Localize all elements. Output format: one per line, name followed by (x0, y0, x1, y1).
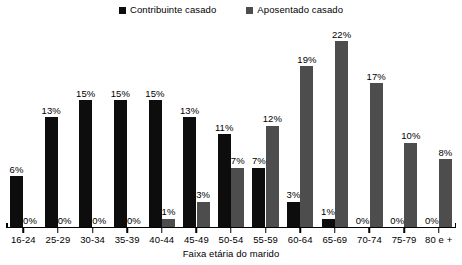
bar (197, 202, 210, 227)
bar (231, 168, 244, 227)
x-axis-tick (438, 228, 440, 233)
x-axis-tick (403, 228, 405, 233)
bar (10, 176, 23, 227)
x-axis-tick-label: 65-69 (322, 234, 347, 246)
x-axis-tick-label: 50-54 (219, 234, 244, 246)
x-axis-tick (230, 228, 232, 233)
bar-value-label: 0% (92, 216, 106, 226)
x-axis-tick-label: 75-79 (392, 234, 417, 246)
bar-group: 0%10% (387, 22, 422, 228)
x-axis-tick-label: 30-34 (80, 234, 105, 246)
bar (183, 117, 196, 227)
legend-entry-contribuinte-casado: Contribuinte casado (119, 5, 216, 15)
square-marker-icon (119, 7, 126, 14)
bar-value-label: 1% (321, 207, 335, 217)
bar-group: 3%19% (283, 22, 318, 228)
bar (287, 202, 300, 227)
x-axis-title: Faixa etária do marido (0, 248, 462, 260)
bar (45, 117, 58, 227)
bar-value-label: 3% (196, 190, 210, 200)
bar-value-label: 7% (231, 156, 245, 166)
bar (79, 100, 92, 227)
bar-value-label: 0% (356, 216, 370, 226)
bar (149, 100, 162, 227)
bar-group: 0%8% (421, 22, 456, 228)
bar-group: 15%0% (110, 22, 145, 228)
bar-value-label: 17% (367, 72, 386, 82)
x-axis-tick (92, 228, 94, 233)
bar-value-label: 6% (10, 165, 24, 175)
x-axis-tick (369, 228, 371, 233)
x-axis-tick (196, 228, 198, 233)
bar-value-label: 3% (287, 190, 301, 200)
bar-group: 15%1% (144, 22, 179, 228)
x-axis-tick-label: 70-74 (357, 234, 382, 246)
bar-value-label: 10% (401, 131, 420, 141)
bar-group: 7%12% (248, 22, 283, 228)
bar-group: 13%3% (179, 22, 214, 228)
bar-chart: Contribuinte casado Aposentado casado 6%… (0, 0, 462, 265)
x-axis-tick-label: 35-39 (115, 234, 140, 246)
x-axis-tick (126, 228, 128, 233)
x-axis-tick (334, 228, 336, 233)
x-axis-tick (57, 228, 59, 233)
bar (114, 100, 127, 227)
legend-entry-aposentado-casado: Aposentado casado (246, 5, 343, 15)
bar-value-label: 22% (332, 30, 351, 40)
bar (335, 41, 348, 227)
bar-value-label: 1% (162, 207, 176, 217)
bar-value-label: 8% (438, 148, 452, 158)
legend-label: Aposentado casado (257, 5, 343, 15)
bar (162, 219, 175, 227)
bar (439, 159, 452, 227)
bar-value-label: 0% (23, 216, 37, 226)
bar-value-label: 0% (425, 216, 439, 226)
chart-legend: Contribuinte casado Aposentado casado (0, 3, 462, 17)
bar (266, 126, 279, 227)
x-axis-tick-label: 16-24 (11, 234, 36, 246)
bar-value-label: 0% (58, 216, 72, 226)
bar-group: 13%0% (41, 22, 76, 228)
bar-value-label: 12% (263, 114, 282, 124)
bar-group: 0%17% (352, 22, 387, 228)
x-axis-tick-label: 40-44 (149, 234, 174, 246)
x-axis-tick-label: 45-49 (184, 234, 209, 246)
bar (218, 134, 231, 227)
bar-value-label: 0% (127, 216, 141, 226)
x-axis-tick (23, 228, 25, 233)
x-axis-tick-labels: 16-2425-2930-3435-3940-4445-4950-5455-59… (6, 234, 456, 248)
bar-group: 1%22% (318, 22, 353, 228)
bar (300, 66, 313, 227)
plot-area: 6%0%13%0%15%0%15%0%15%1%13%3%11%7%7%12%3… (6, 22, 456, 228)
x-axis-tick-label: 80 e + (425, 234, 452, 246)
x-axis-tick (161, 228, 163, 233)
bar (370, 83, 383, 227)
bar-value-label: 7% (252, 156, 266, 166)
bar-group: 6%0% (6, 22, 41, 228)
bar-value-label: 19% (297, 55, 316, 65)
bar-group: 15%0% (75, 22, 110, 228)
square-marker-icon (246, 7, 253, 14)
x-axis-tick (265, 228, 267, 233)
bar (322, 219, 335, 227)
x-axis-tick-label: 25-29 (46, 234, 71, 246)
x-axis-tick-label: 60-64 (288, 234, 313, 246)
legend-label: Contribuinte casado (130, 5, 216, 15)
x-axis-tick-label: 55-59 (253, 234, 278, 246)
bar (252, 168, 265, 227)
bar (404, 143, 417, 228)
x-axis-tick (299, 228, 301, 233)
bar-value-label: 0% (390, 216, 404, 226)
bar-group: 11%7% (214, 22, 249, 228)
